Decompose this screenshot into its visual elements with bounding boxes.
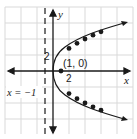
diagram-canvas: y x 2 2 (1, 0) x = −1: [0, 0, 137, 139]
x-axis-label: x: [123, 74, 129, 86]
x-tick-label: 2: [66, 73, 72, 84]
y-axis-label: y: [57, 8, 63, 20]
parabola-diagram: y x 2 2 (1, 0) x = −1: [0, 0, 137, 139]
y-tick-label: 2: [44, 51, 50, 62]
x-axis-arrow-left-icon: [8, 68, 14, 74]
focus-label: (1, 0): [63, 57, 88, 69]
y-axis-arrow-down-icon: [50, 127, 56, 133]
parabola-lower-branch: [53, 71, 124, 119]
directrix-label: x = −1: [6, 87, 36, 98]
y-axis-arrow-up-icon: [50, 10, 56, 16]
focus-point: [59, 69, 64, 74]
